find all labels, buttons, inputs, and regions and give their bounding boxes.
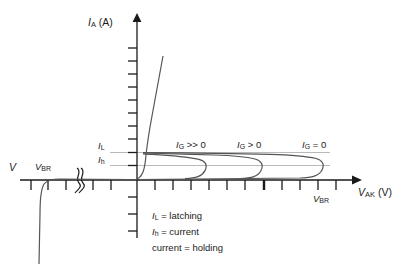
negative-axis-label: V xyxy=(9,162,16,173)
curve-label-sub: G xyxy=(240,143,245,150)
y-axis-arrowhead xyxy=(133,13,142,22)
iv-characteristic-figure: IA (A) VAK (V) V VBR VBR IL Ih IG >> 0 I… xyxy=(0,0,409,269)
legend-line-latching: IL = latching xyxy=(152,211,202,221)
x-axis-label-sub: AK xyxy=(365,190,375,199)
axis-arrowheads xyxy=(133,13,362,184)
legend-sub: L xyxy=(155,214,159,221)
breakdown-right-sub: BR xyxy=(319,197,329,204)
negative-axis-label-symbol: V xyxy=(9,161,16,173)
x-axis-label-unit: (V) xyxy=(378,186,392,198)
curve-label-relation: >> 0 xyxy=(187,139,206,150)
x-axis-label-symbol: V xyxy=(358,186,365,198)
guide-lines xyxy=(110,153,330,166)
x-axis-ticks xyxy=(31,180,336,190)
breakdown-left-sub: BR xyxy=(41,165,51,172)
reverse-breakdown-curve xyxy=(39,179,130,264)
curve-label-relation: = 0 xyxy=(313,139,326,150)
y-axis-label-sub: A xyxy=(91,20,96,29)
iv-characteristic-plot xyxy=(0,0,409,269)
legend-text: = current xyxy=(161,226,199,237)
curve-ig-much-greater-path xyxy=(143,154,206,179)
breakdown-right-label: VBR xyxy=(313,194,329,204)
latching-current-sub: L xyxy=(101,144,105,151)
y-axis-label-unit: (A) xyxy=(99,16,113,28)
curve-label-ig-greater: IG > 0 xyxy=(237,140,261,150)
curve-label-ig-zero: IG = 0 xyxy=(302,140,326,150)
x-axis-arrowhead xyxy=(352,176,362,185)
curve-label-sub: G xyxy=(305,143,310,150)
on-state-branch-path xyxy=(134,56,163,180)
curve-ig-much-greater xyxy=(143,154,206,179)
axis-lines xyxy=(20,22,352,238)
legend-line-holding: Ih = current xyxy=(152,227,199,237)
holding-current-label: Ih xyxy=(98,155,105,165)
reverse-curve-path xyxy=(39,179,130,264)
legend-sub: h xyxy=(155,230,159,237)
curve-label-ig-much-greater: IG >> 0 xyxy=(176,140,206,150)
curve-label-sub: G xyxy=(179,143,184,150)
on-state-branch xyxy=(134,56,163,180)
legend-text: current = holding xyxy=(152,242,223,253)
breakdown-left-label: VBR xyxy=(35,162,51,172)
legend-text: = latching xyxy=(161,210,202,221)
x-axis-label: VAK (V) xyxy=(358,187,392,199)
y-axis-label: IA (A) xyxy=(88,17,113,29)
legend-line-current-holding: current = holding xyxy=(152,243,223,253)
y-axis-ticks xyxy=(128,48,137,231)
holding-current-sub: h xyxy=(101,158,105,165)
curve-label-relation: > 0 xyxy=(248,139,261,150)
latching-current-label: IL xyxy=(98,141,105,151)
